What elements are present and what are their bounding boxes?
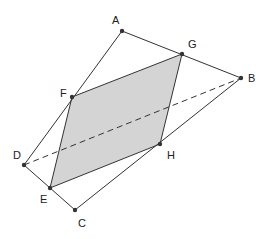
point-G	[180, 52, 184, 56]
geometry-diagram: A G B F D H E C	[0, 0, 271, 239]
point-F	[70, 95, 74, 99]
label-E: E	[40, 193, 47, 205]
point-A	[120, 29, 124, 33]
point-D	[22, 163, 26, 167]
point-E	[48, 186, 52, 190]
label-F: F	[60, 87, 67, 99]
label-G: G	[188, 38, 197, 50]
point-C	[73, 208, 77, 212]
label-C: C	[78, 217, 86, 229]
label-B: B	[248, 72, 255, 84]
label-A: A	[112, 14, 120, 26]
point-B	[239, 76, 243, 80]
label-H: H	[167, 149, 175, 161]
point-H	[158, 142, 162, 146]
shaded-parallelogram-FGHE	[50, 54, 182, 188]
label-D: D	[13, 149, 21, 161]
